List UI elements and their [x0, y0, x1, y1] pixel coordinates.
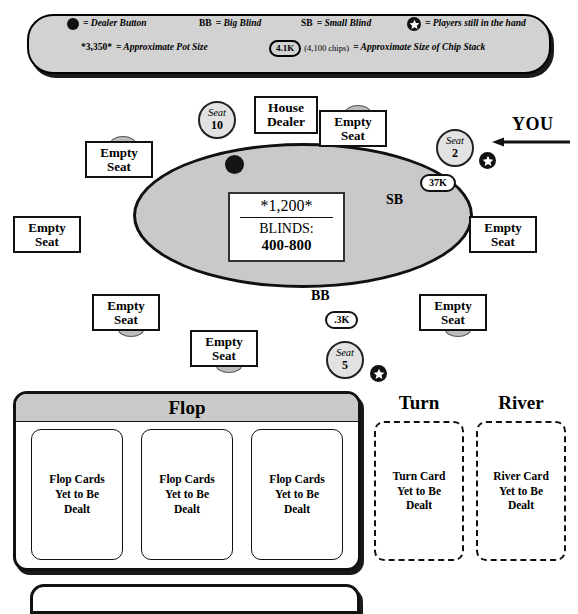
flop-card-slot-2[interactable]: Flop Cards Yet to Be Dealt: [141, 429, 233, 560]
turn-card-line-3: Dealt: [393, 498, 446, 513]
flop-card-slot-1[interactable]: Flop Cards Yet to Be Dealt: [31, 429, 123, 560]
legend-pot-example-value: *3,350*: [81, 43, 112, 53]
seat-2-number: 2: [452, 147, 458, 160]
house-dealer-box[interactable]: House Dealer: [254, 96, 318, 134]
seat-2-marker[interactable]: Seat 2: [436, 129, 474, 167]
legend-dealer-button-text: = Dealer Button: [83, 19, 146, 29]
seat-10-number: 10: [211, 119, 223, 132]
legend-sb-abbr: SB: [301, 19, 313, 29]
river-column: River River Card Yet to Be Dealt: [476, 391, 566, 561]
flop-card-line-2: Yet to Be: [159, 487, 214, 502]
flop-card-line-3: Dealt: [159, 502, 214, 517]
seat-5-marker[interactable]: Seat 5: [326, 341, 364, 379]
seat-empty-bottom-left[interactable]: Empty Seat: [92, 294, 160, 331]
flop-panel: Flop Flop Cards Yet to Be Dealt Flop Car…: [13, 391, 361, 571]
empty-seat-line-2: Seat: [87, 160, 151, 174]
legend-players-in-hand-text: = Players still in the hand: [425, 19, 526, 29]
pot-info-box: *1,200* BLINDS: 400-800: [228, 192, 345, 262]
legend-pot-size-text: = Approximate Pot Size: [116, 43, 208, 53]
small-blind-position-label: SB: [386, 192, 403, 208]
river-card-line-3: Dealt: [493, 498, 549, 513]
house-dealer-line-1: House: [256, 101, 316, 115]
blinds-value: 400-800: [230, 236, 343, 255]
seat-empty-right[interactable]: Empty Seat: [469, 216, 537, 253]
empty-seat-line-1: Empty: [421, 299, 485, 313]
legend-item-big-blind: BB = Big Blind: [199, 16, 261, 32]
seat-empty-left[interactable]: Empty Seat: [13, 216, 81, 253]
seat-10-marker[interactable]: Seat 10: [198, 101, 236, 139]
next-panel-partial: [30, 584, 360, 614]
seat-5-chip-stack: .3K: [325, 311, 358, 329]
legend-chip-paren-text: (4,100 chips): [304, 43, 349, 53]
chip-stack-example-pill: 4.1K: [269, 40, 301, 57]
pot-amount: *1,200*: [240, 197, 333, 218]
turn-column: Turn Turn Card Yet to Be Dealt: [374, 391, 464, 561]
empty-seat-line-2: Seat: [94, 313, 158, 327]
flop-card-line-3: Dealt: [269, 502, 324, 517]
seat-empty-bottom-center[interactable]: Empty Seat: [190, 330, 258, 367]
legend-item-dealer-button: = Dealer Button: [67, 16, 146, 32]
seat-empty-top-left[interactable]: Empty Seat: [85, 141, 153, 178]
empty-seat-line-1: Empty: [321, 115, 385, 129]
flop-card-line-1: Flop Cards: [159, 472, 214, 487]
empty-seat-line-2: Seat: [192, 349, 256, 363]
legend-item-pot-size: *3,350* = Approximate Pot Size: [81, 40, 208, 56]
empty-seat-line-2: Seat: [15, 235, 79, 249]
you-pointer-arrow-icon: [492, 137, 570, 147]
flop-card-line-2: Yet to Be: [49, 487, 104, 502]
legend-bb-abbr: BB: [199, 19, 212, 29]
star-in-hand-icon: [407, 17, 421, 31]
flop-card-line-2: Yet to Be: [269, 487, 324, 502]
legend-item-small-blind: SB = Small Blind: [301, 16, 371, 32]
legend-small-blind-text: = Small Blind: [317, 19, 372, 29]
river-card-slot[interactable]: River Card Yet to Be Dealt: [476, 421, 566, 561]
seat-empty-top-right[interactable]: Empty Seat: [319, 110, 387, 147]
turn-title: Turn: [374, 391, 464, 415]
seat-2-in-hand-star-icon: [479, 152, 496, 169]
empty-seat-line-2: Seat: [421, 313, 485, 327]
turn-card-line-1: Turn Card: [393, 469, 446, 484]
dealer-button-dot-icon: [67, 18, 79, 30]
you-pointer-label: YOU: [512, 114, 554, 135]
legend-big-blind-text: = Big Blind: [216, 19, 262, 29]
house-dealer-line-2: Dealer: [256, 115, 316, 129]
flop-card-line-1: Flop Cards: [49, 472, 104, 487]
legend-panel: = Dealer Button BB = Big Blind SB = Smal…: [27, 14, 551, 74]
empty-seat-line-2: Seat: [471, 235, 535, 249]
seat-2-chip-stack: 37K: [420, 174, 456, 192]
dealer-button-marker-icon: [225, 155, 244, 174]
seat-empty-bottom-right[interactable]: Empty Seat: [419, 294, 487, 331]
flop-card-slot-3[interactable]: Flop Cards Yet to Be Dealt: [251, 429, 343, 560]
empty-seat-line-1: Empty: [87, 146, 151, 160]
legend-chip-stack-text: = Approximate Size of Chip Stack: [353, 43, 485, 53]
empty-seat-line-1: Empty: [15, 221, 79, 235]
flop-title: Flop: [16, 394, 358, 422]
empty-seat-line-2: Seat: [321, 129, 385, 143]
flop-card-line-1: Flop Cards: [269, 472, 324, 487]
river-card-line-1: River Card: [493, 469, 549, 484]
empty-seat-line-1: Empty: [471, 221, 535, 235]
legend-item-chip-stack: 4.1K (4,100 chips) = Approximate Size of…: [269, 40, 485, 56]
legend-item-players-in-hand: = Players still in the hand: [407, 16, 526, 32]
seat-5-number: 5: [342, 359, 348, 372]
river-title: River: [476, 391, 566, 415]
empty-seat-line-1: Empty: [94, 299, 158, 313]
river-card-line-2: Yet to Be: [493, 484, 549, 499]
big-blind-position-label: BB: [311, 288, 330, 304]
empty-seat-line-1: Empty: [192, 335, 256, 349]
blinds-label: BLINDS:: [230, 221, 343, 236]
flop-card-row: Flop Cards Yet to Be Dealt Flop Cards Ye…: [16, 422, 358, 567]
flop-card-line-3: Dealt: [49, 502, 104, 517]
turn-card-line-2: Yet to Be: [393, 484, 446, 499]
turn-card-slot[interactable]: Turn Card Yet to Be Dealt: [374, 421, 464, 561]
seat-5-in-hand-star-icon: [370, 365, 387, 382]
